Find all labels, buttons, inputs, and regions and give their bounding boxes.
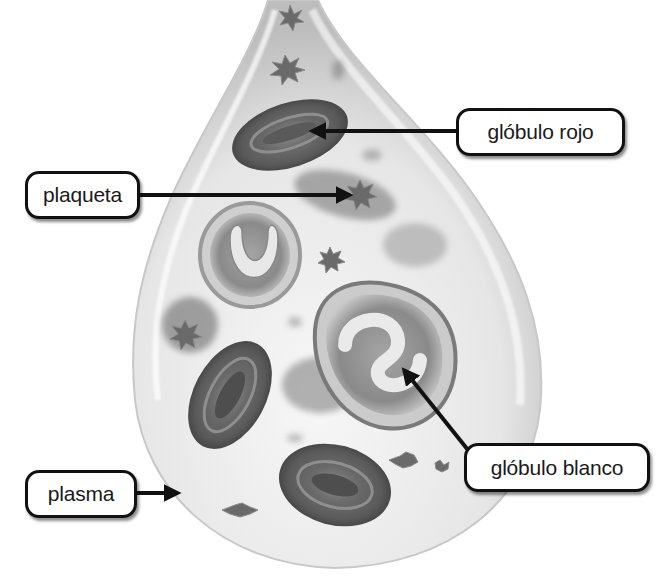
- label-platelet-text: plaqueta: [43, 183, 122, 207]
- label-red-blood-cell: glóbulo rojo: [456, 108, 625, 156]
- label-white-blood-cell: glóbulo blanco: [464, 443, 650, 492]
- label-plasma-text: plasma: [48, 482, 115, 506]
- label-red-blood-cell-text: glóbulo rojo: [487, 120, 593, 144]
- label-plasma: plasma: [25, 470, 137, 518]
- label-white-blood-cell-text: glóbulo blanco: [491, 456, 624, 480]
- white-blood-cell-small: [200, 203, 300, 307]
- blood-drop-diagram: glóbulo rojo plaqueta glóbulo blanco pla…: [0, 0, 665, 580]
- label-platelet: plaqueta: [25, 171, 140, 219]
